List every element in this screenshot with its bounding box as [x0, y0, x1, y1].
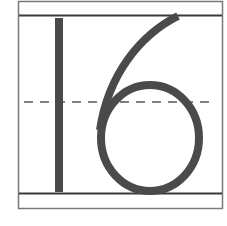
handwriting-practice-card: 16 — [0, 0, 227, 226]
digit-one-stroke — [55, 18, 63, 192]
numeral-16-tracing-figure: 16 — [0, 0, 227, 226]
